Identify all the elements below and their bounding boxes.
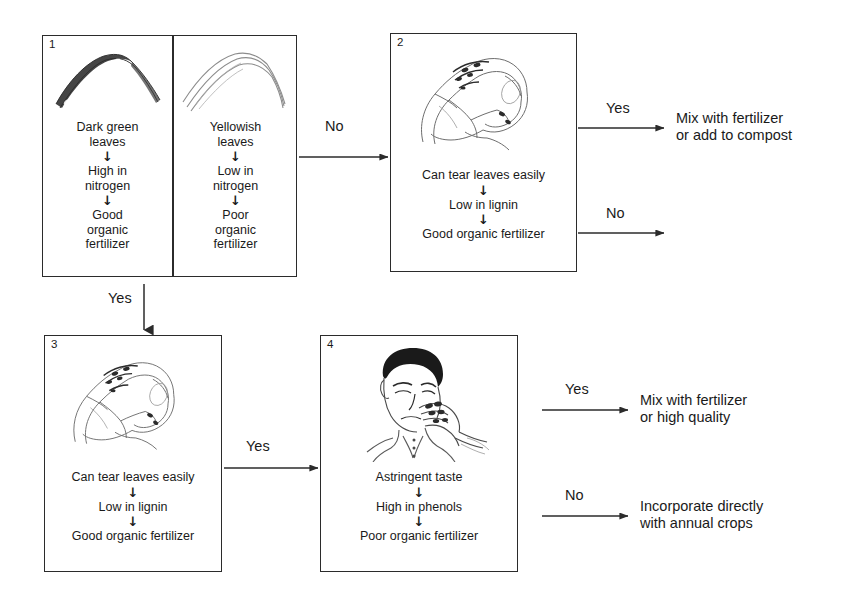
down-arrow-icon: ↓: [43, 194, 172, 207]
chain-step: Good organic fertilizer: [422, 227, 544, 241]
box-4-chain: Astringent taste ↓ High in phenols ↓ Poo…: [321, 470, 517, 544]
box-1-left-pane: Dark green leaves ↓ High in nitrogen ↓ G…: [43, 36, 172, 276]
chain-step: Can tear leaves easily: [72, 470, 195, 484]
chain-step: Good organic fertilizer: [72, 529, 194, 543]
chain-step: Astringent taste: [376, 470, 463, 484]
hands-tearing-leaf-sketch: [391, 46, 576, 154]
box-1-right-chain: Yellowish leaves ↓ Low in nitrogen ↓ Poo…: [173, 120, 298, 252]
chain-step: High in phenols: [376, 500, 462, 514]
chain-step: Low in nitrogen: [213, 164, 258, 193]
hands-tearing-leaf-sketch: [45, 348, 221, 456]
decision-box-2[interactable]: 2: [390, 33, 577, 272]
connector-label-no-box4-outcome3: No: [565, 487, 584, 503]
decision-box-4[interactable]: 4: [320, 335, 518, 572]
box-2-chain: Can tear leaves easily ↓ Low in lignin ↓…: [391, 168, 576, 242]
chain-step: Poor organic fertilizer: [214, 208, 258, 251]
decision-box-1[interactable]: 1: [42, 35, 297, 277]
connector-label-no-box2: No: [606, 205, 625, 221]
down-arrow-icon: ↓: [173, 194, 298, 207]
down-arrow-icon: ↓: [391, 184, 576, 197]
outcome-incorporate-annual-crops: Incorporate directly with annual crops: [640, 498, 845, 532]
chain-step: Good organic fertilizer: [86, 208, 130, 251]
box-3-chain: Can tear leaves easily ↓ Low in lignin ↓…: [45, 470, 221, 544]
person-tasting-leaf-sketch: [321, 344, 517, 462]
connector-label-yes-box2-outcome1: Yes: [606, 100, 630, 116]
outcome-mix-fertilizer-high-quality: Mix with fertilizer or high quality: [640, 392, 835, 426]
dark-green-leaf-sketch: [43, 46, 172, 114]
diagram-canvas: 1: [0, 0, 863, 600]
chain-step: Dark green leaves: [77, 120, 139, 149]
connector-label-yes-box3-box4: Yes: [246, 438, 270, 454]
outcome-mix-fertilizer-compost: Mix with fertilizer or add to compost: [676, 110, 861, 144]
chain-step: Yellowish leaves: [210, 120, 262, 149]
down-arrow-icon: ↓: [45, 486, 221, 499]
chain-step: High in nitrogen: [85, 164, 130, 193]
down-arrow-icon: ↓: [321, 486, 517, 499]
connector-label-no-box1-box2: No: [325, 118, 344, 134]
down-arrow-icon: ↓: [43, 150, 172, 163]
down-arrow-icon: ↓: [321, 515, 517, 528]
box-1-left-chain: Dark green leaves ↓ High in nitrogen ↓ G…: [43, 120, 172, 252]
decision-box-3[interactable]: 3: [44, 335, 222, 572]
yellowish-leaf-sketch: [173, 46, 298, 114]
down-arrow-icon: ↓: [45, 515, 221, 528]
connector-label-yes-box4-outcome2: Yes: [565, 381, 589, 397]
chain-step: Can tear leaves easily: [422, 168, 545, 182]
box-1-right-pane: Yellowish leaves ↓ Low in nitrogen ↓ Poo…: [173, 36, 298, 276]
down-arrow-icon: ↓: [173, 150, 298, 163]
chain-step: Poor organic fertilizer: [360, 529, 478, 543]
down-arrow-icon: ↓: [391, 213, 576, 226]
connector-label-yes-box1-box3: Yes: [108, 290, 132, 306]
chain-step: Low in lignin: [449, 198, 518, 212]
chain-step: Low in lignin: [99, 500, 168, 514]
